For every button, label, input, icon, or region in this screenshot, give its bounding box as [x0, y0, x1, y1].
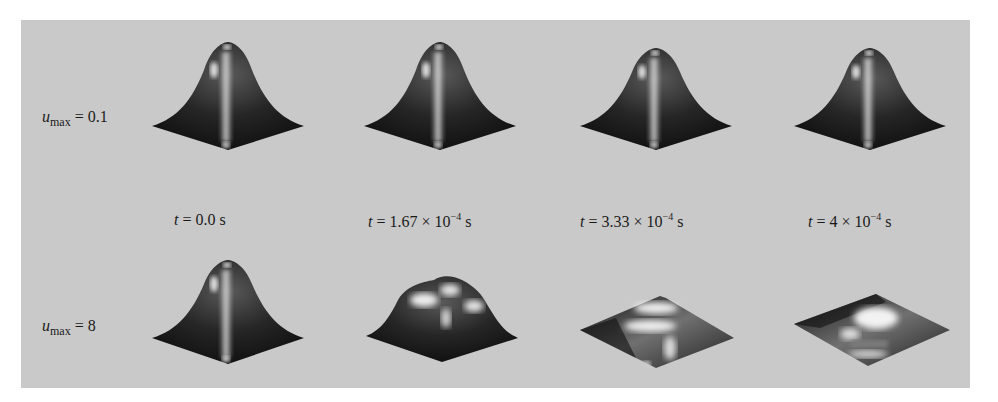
surface-plot-r1-c3	[576, 38, 736, 158]
time-label-1: t = 1.67 × 10−4 s	[368, 212, 471, 230]
flat-sheet-surface-icon	[790, 262, 950, 382]
time-label-0: t = 0.0 s	[174, 212, 226, 228]
flat-sheet-surface-icon	[576, 262, 736, 382]
surface-plot-r1-c4	[790, 38, 950, 158]
plateau-surface-icon	[362, 256, 522, 376]
row-label-umax-8: umax = 8	[42, 318, 96, 337]
gaussian-bump-surface-icon	[148, 252, 308, 372]
time-label-3: t = 4 × 10−4 s	[808, 212, 891, 230]
surface-plot-r1-c2	[360, 30, 520, 150]
surface-plot-r2-c2	[362, 256, 522, 376]
surface-plot-r2-c3	[576, 262, 736, 382]
row-label-umax-0.1: umax = 0.1	[42, 109, 108, 128]
gaussian-bump-surface-icon	[360, 30, 520, 150]
surface-plot-r2-c4	[790, 262, 950, 382]
surface-plot-r1-c1	[148, 30, 308, 150]
gaussian-bump-surface-icon	[148, 30, 308, 150]
time-label-2: t = 3.33 × 10−4 s	[580, 212, 683, 230]
gaussian-bump-surface-icon	[576, 38, 736, 158]
gaussian-bump-surface-icon	[790, 38, 950, 158]
surface-plot-r2-c1	[148, 252, 308, 372]
